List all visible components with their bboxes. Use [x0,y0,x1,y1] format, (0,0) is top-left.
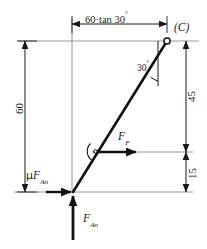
degree-symbol-top: ° [125,10,128,17]
angle-arc-ff [87,144,91,161]
angle-arc-30 [151,77,158,81]
degree-symbol-angle: ° [147,59,150,66]
force-symbol-normal: F [83,212,90,224]
force-subscript-friction: An [40,178,48,186]
free-body-diagram: 60·tan 30° (C) 30° 60 45 15 μFAn FF FAn [0,0,207,249]
dimension-label-top: 60·tan 30° [85,13,128,25]
force-symbol-ff: F [118,130,125,142]
force-label-normal: FAn [83,213,98,227]
dimension-label-left: 60 [14,103,25,114]
dimension-label-right-lower: 15 [187,168,198,179]
dimension-label-right-upper: 45 [186,91,197,102]
force-label-friction: μFAn [26,170,48,184]
mu-symbol: μ [26,169,33,182]
force-subscript-normal: An [90,221,98,229]
inclined-member [73,41,167,192]
force-symbol-friction: F [33,169,40,181]
node-point-c [164,38,170,44]
node-label-point-c: (C) [174,22,189,34]
force-label-ff: FF [118,131,129,145]
diagram-canvas [0,0,207,249]
angle-label-30: 30° [137,62,149,74]
force-subscript-ff: F [125,139,129,147]
extension-lines [14,18,199,192]
